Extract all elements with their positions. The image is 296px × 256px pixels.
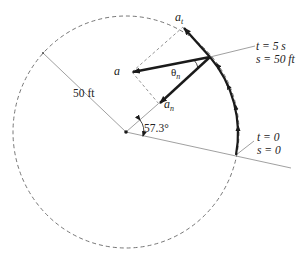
label-end-distance: s = 50 ft [256,53,296,66]
diagram-svg: at a an θn 50 ft 57.3° t = 5 s s = 50 ft… [0,0,296,256]
label-a-n: an [164,97,174,113]
diagram-canvas: at a an θn 50 ft 57.3° t = 5 s s = 50 ft… [0,0,296,256]
label-a: a [114,64,120,78]
label-angle: 57.3° [144,122,169,134]
theta-angle-arc [194,60,198,68]
center-point [124,130,128,134]
dashed-construction-2 [132,72,159,104]
label-theta-n: θn [171,66,180,81]
label-start-distance: s = 0 [257,144,281,156]
label-start-time: t = 0 [257,131,280,143]
end-leader-line [210,46,255,57]
label-a-t: at [175,10,184,26]
label-radius: 50 ft [73,87,95,99]
tangential-acceleration-vector [184,28,210,57]
label-end-time: t = 5 s [256,40,286,52]
traveled-arc [210,57,238,155]
